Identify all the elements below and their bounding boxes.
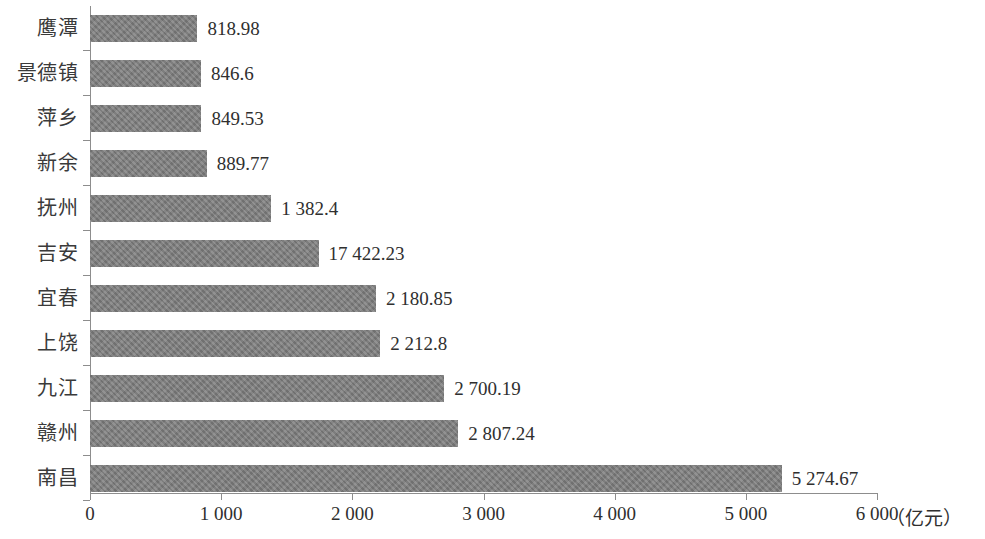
bar <box>90 285 376 312</box>
bar-value-label: 889.77 <box>217 150 269 177</box>
bar-row: 萍乡849.53 <box>90 96 877 141</box>
bar <box>90 105 201 132</box>
x-axis-tick <box>746 493 747 500</box>
bar-chart: 鹰潭818.98景德镇846.6萍乡849.53新余889.77抚州1 382.… <box>0 0 985 539</box>
category-label: 宜春 <box>0 276 78 321</box>
bar-value-label: 849.53 <box>211 105 263 132</box>
y-axis-tick <box>83 500 90 501</box>
category-label: 南昌 <box>0 456 78 501</box>
bar-row: 赣州2 807.24 <box>90 411 877 456</box>
y-axis-tick <box>83 455 90 456</box>
bar-value-label: 2 180.85 <box>386 285 453 312</box>
bar <box>90 240 319 267</box>
bar <box>90 375 444 402</box>
bar-value-label: 1 382.4 <box>281 195 338 222</box>
bar-row: 上饶2 212.8 <box>90 321 877 366</box>
bar-row: 景德镇846.6 <box>90 51 877 96</box>
x-axis-tick <box>484 493 485 500</box>
bar-row: 鹰潭818.98 <box>90 6 877 51</box>
bar <box>90 420 458 447</box>
x-axis-tick <box>221 493 222 500</box>
y-axis-tick <box>83 230 90 231</box>
x-axis-tick-label: 1 000 <box>200 503 243 525</box>
bar-value-label: 846.6 <box>211 60 254 87</box>
category-label: 九江 <box>0 366 78 411</box>
y-axis-tick <box>83 140 90 141</box>
bar-value-label: 2 212.8 <box>390 330 447 357</box>
category-label: 抚州 <box>0 186 78 231</box>
y-axis-tick <box>83 410 90 411</box>
category-label: 景德镇 <box>0 51 78 96</box>
bar-value-label: 2 807.24 <box>468 420 535 447</box>
bar-row: 抚州1 382.4 <box>90 186 877 231</box>
bar-row: 新余889.77 <box>90 141 877 186</box>
category-label: 鹰潭 <box>0 6 78 51</box>
bar <box>90 60 201 87</box>
y-axis-tick <box>83 50 90 51</box>
x-axis-tick <box>90 493 91 500</box>
category-label: 吉安 <box>0 231 78 276</box>
x-axis-tick-label: 5 000 <box>724 503 767 525</box>
bar <box>90 150 207 177</box>
category-label: 赣州 <box>0 411 78 456</box>
y-axis-tick <box>83 275 90 276</box>
bar-value-label: 5 274.67 <box>792 465 859 492</box>
bar-value-label: 17 422.23 <box>329 240 405 267</box>
x-axis-tick-label: 2 000 <box>331 503 374 525</box>
x-axis-tick-label: 0 <box>85 503 95 525</box>
y-axis-tick <box>83 95 90 96</box>
x-axis-tick <box>352 493 353 500</box>
bar-value-label: 818.98 <box>207 15 259 42</box>
plot-area: 鹰潭818.98景德镇846.6萍乡849.53新余889.77抚州1 382.… <box>90 6 877 492</box>
x-axis-tick-label: 3 000 <box>462 503 505 525</box>
bar-value-label: 2 700.19 <box>454 375 521 402</box>
bar <box>90 15 197 42</box>
category-label: 上饶 <box>0 321 78 366</box>
x-axis-tick <box>877 493 878 500</box>
bar-row: 九江2 700.19 <box>90 366 877 411</box>
bar-row: 宜春2 180.85 <box>90 276 877 321</box>
y-axis-tick <box>83 365 90 366</box>
x-axis-tick <box>615 493 616 500</box>
bar <box>90 330 380 357</box>
bar-row: 吉安17 422.23 <box>90 231 877 276</box>
y-axis-tick <box>83 185 90 186</box>
bar <box>90 465 782 492</box>
category-label: 萍乡 <box>0 96 78 141</box>
y-axis-tick <box>83 320 90 321</box>
category-label: 新余 <box>0 141 78 186</box>
x-axis-tick-label: 4 000 <box>593 503 636 525</box>
x-axis-unit-label: （亿元） <box>886 503 962 530</box>
bar <box>90 195 271 222</box>
